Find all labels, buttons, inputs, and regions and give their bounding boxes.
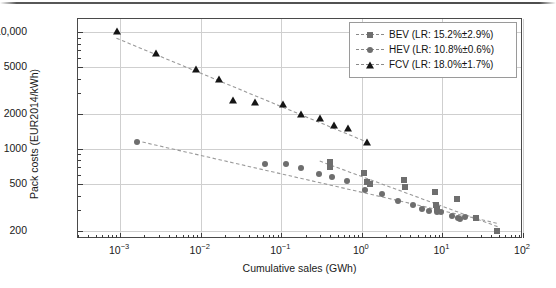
data-point-hev (410, 202, 416, 208)
figure-canvas: Pack costs (EUR2014/kWh) 10−310−210−1100… (0, 0, 556, 288)
data-point-fcv (330, 121, 338, 128)
data-point-bev (454, 196, 460, 202)
trendline-hev (137, 141, 499, 224)
data-point-fcv (229, 96, 237, 103)
y-tick-label-5: 10,000 (0, 25, 27, 37)
data-point-fcv (279, 100, 287, 107)
legend-marker-hev (356, 44, 384, 55)
data-point-hev (134, 139, 140, 145)
data-point-hev (344, 178, 350, 184)
data-point-bev (432, 189, 438, 195)
legend-label: HEV (LR: 10.8%±0.6%) (389, 44, 494, 55)
y-axis-title: Pack costs (EUR2014/kWh) (28, 24, 40, 244)
data-point-bev (494, 228, 500, 234)
x-tick-label-5: 102 (514, 242, 530, 256)
x-gridline (523, 19, 524, 237)
data-point-hev (438, 209, 444, 215)
legend-label: BEV (LR: 15.2%±2.9%) (389, 29, 493, 40)
square-icon (367, 32, 373, 38)
data-point-hev (329, 174, 335, 180)
data-point-hev (283, 161, 289, 167)
page-top-rule (0, 2, 556, 4)
data-point-hev (298, 165, 304, 171)
legend-marker-bev (356, 29, 384, 40)
data-point-fcv (152, 49, 160, 56)
legend-label: FCV (LR: 18.0%±1.7%) (389, 59, 493, 70)
y-tick-label-0: 200 (9, 224, 27, 236)
x-tick-label-3: 100 (353, 242, 369, 256)
data-point-fcv (297, 111, 305, 118)
data-point-fcv (363, 139, 371, 146)
data-point-hev (426, 208, 432, 214)
data-point-bev (401, 177, 407, 183)
y-tick-label-3: 2000 (4, 107, 27, 119)
x-tick-label-2: 10−1 (270, 242, 290, 256)
data-point-bev (402, 184, 408, 190)
data-point-fcv (192, 66, 200, 73)
legend-marker-fcv (356, 59, 384, 70)
circle-icon (367, 47, 373, 53)
data-point-bev (361, 170, 367, 176)
y-tick-label-4: 5000 (4, 60, 27, 72)
data-point-bev (473, 215, 479, 221)
chart-legend: BEV (LR: 15.2%±2.9%)HEV (LR: 10.8%±0.6%)… (349, 22, 517, 78)
x-tick (523, 233, 524, 238)
y-tick-label-1: 500 (9, 177, 27, 189)
y-tick-label-2: 1000 (4, 142, 27, 154)
triangle-icon (366, 61, 374, 68)
data-point-hev (449, 213, 455, 219)
data-point-bev (327, 164, 333, 170)
data-point-hev (362, 187, 368, 193)
x-tick-label-0: 10−3 (109, 242, 129, 256)
data-point-fcv (251, 98, 259, 105)
x-axis-title: Cumulative sales (GWh) (77, 262, 522, 274)
data-point-bev (367, 181, 373, 187)
data-point-fcv (344, 124, 352, 131)
data-point-hev (262, 161, 268, 167)
data-point-hev (419, 206, 425, 212)
legend-item-fcv[interactable]: FCV (LR: 18.0%±1.7%) (356, 57, 510, 72)
data-point-fcv (113, 28, 121, 35)
data-point-hev (462, 214, 468, 220)
data-point-hev (395, 198, 401, 204)
x-tick-label-4: 101 (433, 242, 449, 256)
data-point-hev (379, 191, 385, 197)
data-point-fcv (316, 115, 324, 122)
data-point-hev (316, 171, 322, 177)
legend-item-bev[interactable]: BEV (LR: 15.2%±2.9%) (356, 27, 510, 42)
legend-item-hev[interactable]: HEV (LR: 10.8%±0.6%) (356, 42, 510, 57)
x-tick-label-1: 10−2 (190, 242, 210, 256)
data-point-fcv (215, 76, 223, 83)
